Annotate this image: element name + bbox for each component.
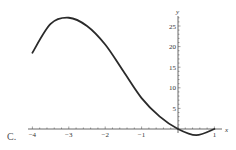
x-tick-label: −1 [138, 131, 146, 139]
y-tick-label: 10 [169, 84, 177, 92]
x-tick-label: −2 [101, 131, 109, 139]
y-ticks: 510152025 [169, 18, 181, 125]
y-tick-label: 15 [169, 64, 177, 72]
chart: −4−3−2−11 510152025 x y [0, 0, 236, 150]
function-curve [32, 18, 214, 135]
option-label: C. [7, 131, 16, 142]
y-tick-label: 25 [169, 23, 177, 31]
x-axis-label: x [224, 126, 229, 134]
y-tick-label: 20 [169, 43, 177, 51]
x-tick-label: 1 [213, 131, 217, 139]
y-axis-label: y [175, 8, 180, 16]
x-tick-label: −4 [29, 131, 37, 139]
x-tick-label: −3 [65, 131, 73, 139]
y-tick-label: 5 [173, 105, 177, 113]
